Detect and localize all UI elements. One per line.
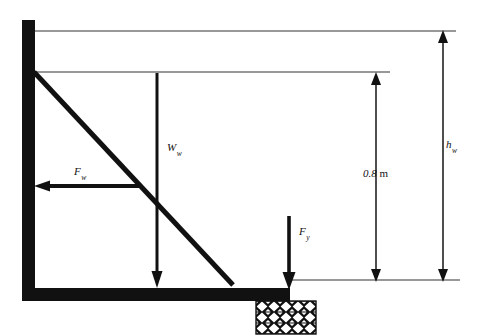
vertical-wall xyxy=(22,20,35,301)
force-vertical-arrow xyxy=(283,216,296,290)
dimension-outer-arrow xyxy=(438,30,448,282)
force-arrows xyxy=(34,73,296,290)
label-dimension-inner-value: 0.8 xyxy=(363,167,377,179)
force-water-arrow xyxy=(34,181,140,192)
label-force-vertical-subscript: y xyxy=(306,233,309,242)
label-dimension-outer-subscript: w xyxy=(452,146,457,155)
wall-face-diagonal xyxy=(34,72,233,285)
base-slab xyxy=(22,288,290,301)
dimension-arrows xyxy=(371,30,448,282)
label-force-vertical: Fy xyxy=(299,226,309,240)
foundation-block-fill xyxy=(256,301,316,334)
label-dimension-inner: 0.8 m xyxy=(363,168,388,179)
label-dimension-outer: hw xyxy=(446,139,457,153)
diagram-svg xyxy=(0,0,486,336)
label-weight-wall-symbol: W xyxy=(167,141,176,153)
reference-lines xyxy=(34,31,460,280)
label-weight-wall-subscript: w xyxy=(177,149,182,158)
diagram-canvas: Fw Ww Fy 0.8 m hw xyxy=(0,0,486,336)
label-force-water-subscript: w xyxy=(81,173,86,182)
label-weight-wall: Ww xyxy=(167,142,181,156)
label-force-water: Fw xyxy=(74,166,86,180)
foundation-block xyxy=(256,301,316,334)
weight-wall-arrow xyxy=(152,73,163,288)
label-force-water-symbol: F xyxy=(74,165,81,177)
label-force-vertical-symbol: F xyxy=(299,225,306,237)
label-dimension-outer-symbol: h xyxy=(446,138,452,150)
label-dimension-inner-unit: m xyxy=(380,167,389,179)
